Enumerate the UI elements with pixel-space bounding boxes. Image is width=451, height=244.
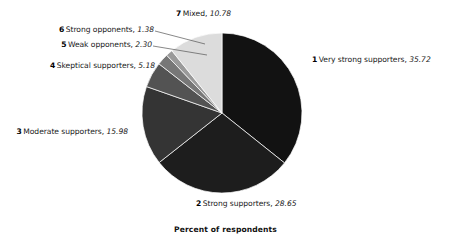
pie-label-slice5-value: 2.30 [135, 40, 152, 49]
pie-label-slice6-name: Strong opponents, [66, 25, 135, 34]
pie-label-slice1-value: 35.72 [409, 55, 431, 64]
pie-label-slice7: 7Mixed, 10.78 [176, 10, 231, 18]
pie-label-slice3: 3Moderate supporters, 15.98 [17, 128, 128, 136]
pie-label-slice4-value: 5.18 [138, 61, 155, 70]
pie-label-slice6-value: 1.38 [137, 25, 154, 34]
pie-slice-group [142, 33, 302, 193]
pie-label-slice2-number: 2 [196, 199, 203, 208]
pie-label-slice2-value: 28.65 [275, 199, 297, 208]
pie-label-slice2: 2Strong supporters, 28.65 [196, 200, 296, 208]
pie-chart-figure: 1Very strong supporters, 35.72 2Strong s… [0, 0, 451, 244]
pie-label-slice5-number: 5 [61, 40, 68, 49]
pie-label-slice4-name: Skeptical supporters, [57, 61, 136, 70]
pie-label-slice5: 5Weak opponents, 2.30 [61, 41, 152, 49]
pie-label-slice5-name: Weak opponents, [68, 40, 133, 49]
chart-axis-caption: Percent of respondents [0, 225, 451, 234]
pie-label-slice2-name: Strong supporters, [203, 199, 273, 208]
pie-label-slice7-name: Mixed, [183, 9, 208, 18]
pie-label-slice1-name: Very strong supporters, [319, 55, 407, 64]
pie-label-slice6-number: 6 [59, 25, 66, 34]
pie-label-slice4-number: 4 [50, 61, 57, 70]
pie-label-slice4: 4Skeptical supporters, 5.18 [50, 62, 155, 70]
pie-label-slice3-name: Moderate supporters, [23, 127, 104, 136]
pie-label-slice7-number: 7 [176, 9, 183, 18]
pie-label-slice3-value: 15.98 [107, 127, 129, 136]
pie-label-slice1-number: 1 [312, 55, 319, 64]
pie-label-slice1: 1Very strong supporters, 35.72 [312, 56, 431, 64]
pie-label-slice7-value: 10.78 [210, 9, 232, 18]
pie-label-slice6: 6Strong opponents, 1.38 [59, 26, 154, 34]
